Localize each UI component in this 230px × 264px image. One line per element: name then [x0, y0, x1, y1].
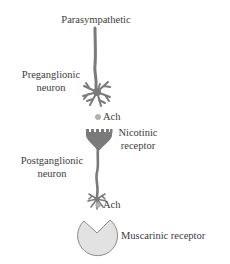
postganglionic-axon	[96, 148, 98, 196]
title-parasympathetic: Parasympathetic	[56, 14, 136, 26]
ach-dot-2-visible	[96, 203, 101, 208]
ach-label-1: Ach	[103, 111, 121, 123]
preganglionic-label-line1: Preganglionic	[16, 69, 86, 81]
ach-dot-1	[95, 114, 100, 119]
nicotinic-receptor-head	[86, 129, 113, 150]
postganglionic-label-line1: Postganglionic	[14, 155, 90, 167]
preganglionic-label-line2: neuron	[16, 82, 86, 94]
ach-label-2: Ach	[103, 199, 121, 211]
muscarinic-receptor	[78, 220, 118, 256]
preganglionic-axon	[95, 28, 96, 88]
muscarinic-label: Muscarinic receptor	[121, 230, 205, 242]
nicotinic-label-line1: Nicotinic	[112, 127, 164, 139]
nicotinic-label-line2: receptor	[112, 140, 164, 152]
postganglionic-label-line2: neuron	[14, 168, 90, 180]
